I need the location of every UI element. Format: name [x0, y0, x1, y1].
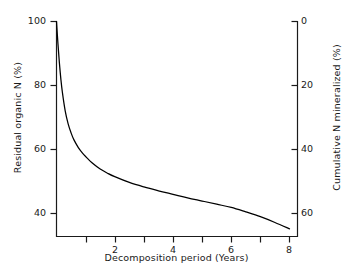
bottom-axis-ticks — [87, 237, 290, 243]
right-tick-label-40: 40 — [301, 143, 327, 154]
left-tick-label-60: 60 — [20, 143, 46, 154]
left-tick-label-80: 80 — [20, 79, 46, 90]
chart-canvas — [0, 0, 353, 277]
x-axis-title: Decomposition period (Years) — [0, 252, 353, 263]
y-axis-right-title: Cumulative N mineralized (%) — [331, 38, 342, 198]
right-axis-ticks — [292, 22, 298, 214]
left-axis-ticks — [51, 22, 57, 214]
left-tick-label-40: 40 — [20, 207, 46, 218]
left-tick-label-100: 100 — [20, 15, 46, 26]
y-axis-left-title: Residual organic N (%) — [12, 38, 23, 198]
right-tick-label-20: 20 — [301, 79, 327, 90]
right-tick-label-0: 0 — [301, 15, 327, 26]
right-tick-label-60: 60 — [301, 207, 327, 218]
chart-figure: 100 80 60 40 0 20 40 60 2 4 6 8 Residual… — [0, 0, 353, 277]
residual-n-curve — [57, 22, 290, 229]
